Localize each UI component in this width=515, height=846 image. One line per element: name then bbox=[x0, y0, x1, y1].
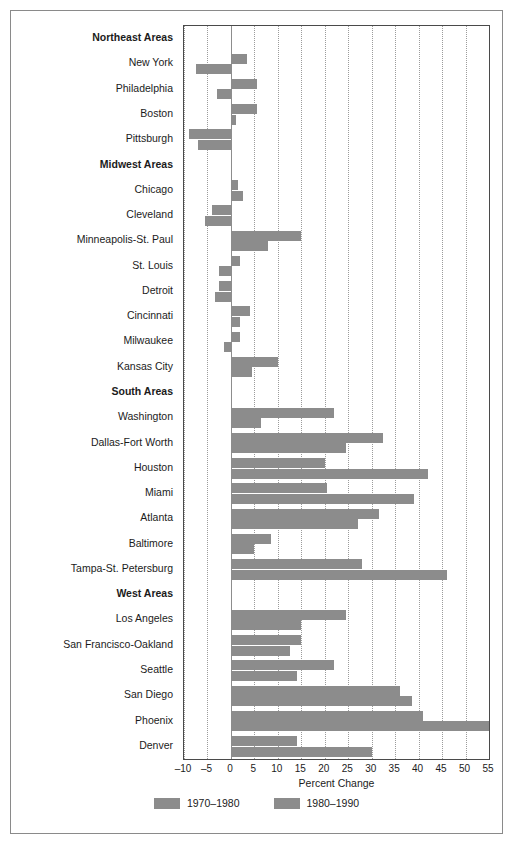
table-row: Boston bbox=[23, 101, 490, 126]
category-label: San Diego bbox=[23, 689, 173, 700]
table-row: New York bbox=[23, 50, 490, 75]
x-tick-label: 0 bbox=[227, 763, 233, 774]
legend-item: 1980–1990 bbox=[274, 797, 360, 809]
table-row: San Francisco-Oakland bbox=[23, 632, 490, 657]
category-label: Atlanta bbox=[23, 512, 173, 523]
category-label: Cleveland bbox=[23, 209, 173, 220]
table-row: Houston bbox=[23, 455, 490, 480]
region-label: West Areas bbox=[23, 588, 173, 599]
region-label: Northeast Areas bbox=[23, 32, 173, 43]
legend-swatch bbox=[274, 798, 300, 809]
category-label: Denver bbox=[23, 740, 173, 751]
table-row: Miami bbox=[23, 480, 490, 505]
x-axis-title: Percent Change bbox=[183, 777, 490, 789]
x-tick-label: 55 bbox=[482, 763, 493, 774]
category-label: Los Angeles bbox=[23, 613, 173, 624]
category-label: Milwaukee bbox=[23, 335, 173, 346]
table-row: Atlanta bbox=[23, 505, 490, 530]
category-label: Dallas-Fort Worth bbox=[23, 437, 173, 448]
table-row: St. Louis bbox=[23, 252, 490, 277]
category-label: New York bbox=[23, 57, 173, 68]
category-label: Chicago bbox=[23, 184, 173, 195]
category-label: Pittsburgh bbox=[23, 133, 173, 144]
table-row: Baltimore bbox=[23, 531, 490, 556]
category-rows: Northeast AreasNew YorkPhiladelphiaBosto… bbox=[23, 25, 490, 760]
x-tick-label: 30 bbox=[365, 763, 376, 774]
category-label: Detroit bbox=[23, 285, 173, 296]
category-label: Washington bbox=[23, 411, 173, 422]
category-label: Seattle bbox=[23, 664, 173, 675]
table-row: San Diego bbox=[23, 682, 490, 707]
x-tick-label: 45 bbox=[436, 763, 447, 774]
table-row: Cincinnati bbox=[23, 303, 490, 328]
x-tick-label: 5 bbox=[251, 763, 257, 774]
x-tick-label: 35 bbox=[389, 763, 400, 774]
category-label: Tampa-St. Petersburg bbox=[23, 563, 173, 574]
legend-label: 1970–1980 bbox=[187, 797, 240, 809]
x-tick-label: 50 bbox=[459, 763, 470, 774]
table-row: Los Angeles bbox=[23, 606, 490, 631]
x-tick-label: –10 bbox=[175, 763, 192, 774]
table-row: Minneapolis-St. Paul bbox=[23, 227, 490, 252]
region-group-row: Midwest Areas bbox=[23, 151, 490, 176]
legend: 1970–19801980–1990 bbox=[23, 797, 490, 809]
category-label: Philadelphia bbox=[23, 83, 173, 94]
category-label: Kansas City bbox=[23, 361, 173, 372]
x-tick-label: –5 bbox=[201, 763, 212, 774]
table-row: Tampa-St. Petersburg bbox=[23, 556, 490, 581]
category-label: San Francisco-Oakland bbox=[23, 639, 173, 650]
region-group-row: West Areas bbox=[23, 581, 490, 606]
region-group-row: South Areas bbox=[23, 379, 490, 404]
legend-swatch bbox=[154, 798, 180, 809]
table-row: Seattle bbox=[23, 657, 490, 682]
category-label: Phoenix bbox=[23, 715, 173, 726]
category-label: St. Louis bbox=[23, 260, 173, 271]
table-row: Washington bbox=[23, 404, 490, 429]
category-label: Houston bbox=[23, 462, 173, 473]
table-row: Kansas City bbox=[23, 354, 490, 379]
x-tick-label: 40 bbox=[412, 763, 423, 774]
table-row: Milwaukee bbox=[23, 328, 490, 353]
table-row: Phoenix bbox=[23, 707, 490, 732]
figure-frame: Northeast AreasNew YorkPhiladelphiaBosto… bbox=[10, 10, 503, 834]
table-row: Cleveland bbox=[23, 202, 490, 227]
table-row: Chicago bbox=[23, 177, 490, 202]
table-row: Detroit bbox=[23, 278, 490, 303]
legend-label: 1980–1990 bbox=[307, 797, 360, 809]
category-label: Minneapolis-St. Paul bbox=[23, 234, 173, 245]
table-row: Dallas-Fort Worth bbox=[23, 429, 490, 454]
legend-item: 1970–1980 bbox=[154, 797, 240, 809]
table-row: Philadelphia bbox=[23, 76, 490, 101]
region-label: South Areas bbox=[23, 386, 173, 397]
x-tick-label: 15 bbox=[295, 763, 306, 774]
region-label: Midwest Areas bbox=[23, 159, 173, 170]
category-label: Boston bbox=[23, 108, 173, 119]
x-tick-label: 10 bbox=[271, 763, 282, 774]
category-label: Miami bbox=[23, 487, 173, 498]
category-label: Cincinnati bbox=[23, 310, 173, 321]
chart-area: Northeast AreasNew YorkPhiladelphiaBosto… bbox=[23, 25, 490, 787]
x-tick-label: 20 bbox=[318, 763, 329, 774]
x-tick-label: 25 bbox=[342, 763, 353, 774]
category-label: Baltimore bbox=[23, 538, 173, 549]
table-row: Denver bbox=[23, 733, 490, 758]
table-row: Pittsburgh bbox=[23, 126, 490, 151]
region-group-row: Northeast Areas bbox=[23, 25, 490, 50]
